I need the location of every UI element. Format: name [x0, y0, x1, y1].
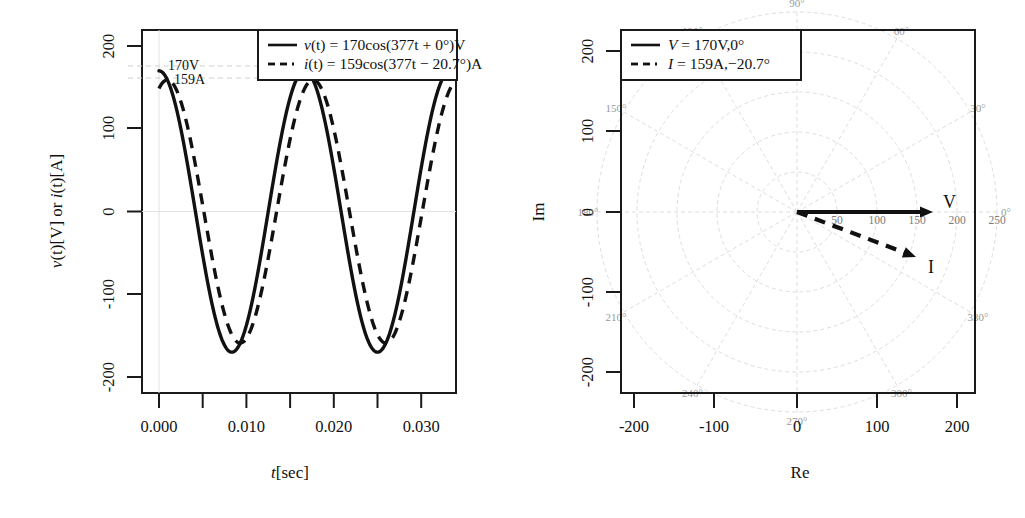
polar-spoke — [797, 212, 970, 312]
legend-entry-voltage: V = 170V,0° — [668, 36, 744, 53]
polar-angle-label: 210° — [606, 311, 627, 323]
legend-entry-current: I = 159A,−20.7° — [667, 55, 770, 72]
polar-spoke — [624, 212, 797, 312]
y-tick-labels: 200 100 0 -100 -200 — [578, 39, 597, 388]
polar-angle-label: 90° — [789, 0, 804, 9]
polar-radial-label: 200 — [948, 214, 966, 226]
polar-spoke — [624, 112, 797, 212]
y-axis-ticks — [127, 46, 142, 377]
x-tick-label: 0.020 — [315, 417, 352, 436]
polar-radial-label: 100 — [868, 214, 886, 226]
phasor-label-i: I — [928, 257, 934, 277]
x-tick-label: 100 — [865, 417, 890, 436]
annotation-170v: 170V — [168, 58, 199, 73]
polar-angle-label: 330° — [968, 311, 989, 323]
x-tick-label: 0.000 — [140, 417, 177, 436]
time-domain-svg: 200 100 0 -100 -200 v(t)[V] or i(t)[A] — [0, 0, 500, 518]
y-tick-label: -200 — [578, 357, 597, 387]
y-tick-label: 200 — [99, 34, 118, 59]
y-tick-label: 200 — [578, 39, 597, 64]
legend: v(t) = 170cos(377t + 0°)V i(t) = 159cos(… — [258, 30, 483, 80]
legend: V = 170V,0° I = 159A,−20.7° — [621, 30, 801, 80]
y-axis-title-t1: (t) — [47, 245, 66, 261]
phasor-vectors: VI — [797, 192, 956, 277]
x-tick-label: 200 — [945, 417, 970, 436]
phasor-label-v: V — [943, 192, 956, 212]
x-axis-title: t[sec] — [271, 463, 309, 482]
y-axis-title: v(t)[V] or i(t)[A] — [47, 154, 66, 268]
x-axis-title-unit: [sec] — [276, 463, 309, 482]
y-tick-labels: 200 100 0 -100 -200 — [99, 34, 118, 393]
y-axis-title-unit2: [A] — [47, 154, 66, 178]
x-axis-title: Re — [791, 463, 810, 482]
polar-radial-labels: 50100150200250 — [831, 214, 1006, 226]
phasor-plot-panel: 0°30°60°90°120°150°180°210°240°270°300°3… — [500, 0, 1025, 518]
figure-container: 200 100 0 -100 -200 v(t)[V] or i(t)[A] — [0, 0, 1025, 518]
time-domain-plot-panel: 200 100 0 -100 -200 v(t)[V] or i(t)[A] — [0, 0, 500, 518]
polar-spoke — [797, 212, 897, 385]
x-tick-label: 0.030 — [403, 417, 440, 436]
x-tick-labels: 0.000 0.010 0.020 0.030 — [140, 417, 439, 436]
polar-angle-label: 150° — [606, 102, 627, 114]
y-axis-title-unit1: [V] or — [47, 198, 66, 244]
polar-spoke — [697, 212, 797, 385]
y-tick-label: -100 — [578, 277, 597, 307]
polar-radial-label: 250 — [988, 214, 1006, 226]
polar-spoke — [797, 39, 897, 212]
y-axis-title-t2: (t) — [47, 177, 66, 193]
y-tick-label: 100 — [99, 116, 118, 141]
legend-entry-voltage: v(t) = 170cos(377t + 0°)V — [304, 36, 466, 54]
x-tick-label: -200 — [619, 417, 649, 436]
y-tick-label: -200 — [99, 362, 118, 392]
annotation-159a: 159A — [174, 72, 206, 87]
legend-entry-current: i(t) = 159cos(377t − 20.7°)A — [304, 55, 483, 73]
legend-entry-current-rest: (t) = 159cos(377t − 20.7°)A — [308, 55, 483, 73]
phasor-v-arrowhead — [920, 207, 933, 218]
legend-entry-current-rest: = 159A,−20.7° — [673, 55, 770, 72]
y-tick-label: -100 — [99, 279, 118, 309]
x-tick-label: 0.010 — [228, 417, 265, 436]
x-tick-label: -100 — [699, 417, 729, 436]
y-tick-label: 100 — [578, 119, 597, 144]
phasor-svg: 0°30°60°90°120°150°180°210°240°270°300°3… — [500, 0, 1025, 518]
x-tick-label: 0 — [793, 417, 801, 436]
x-tick-labels: -200 -100 0 100 200 — [619, 417, 970, 436]
polar-angle-label: 30° — [970, 102, 985, 114]
y-tick-label: 0 — [578, 208, 597, 216]
phasor-i-arrowhead — [902, 247, 916, 257]
phasor-i-shaft — [797, 212, 907, 253]
y-axis-ticks — [606, 51, 621, 372]
y-axis-title: Im — [529, 203, 548, 222]
x-axis-ticks — [159, 393, 421, 408]
legend-entry-voltage-rest: = 170V,0° — [677, 36, 744, 53]
legend-entry-voltage-rest: (t) = 170cos(377t + 0°)V — [311, 36, 466, 54]
y-tick-label: 0 — [99, 207, 118, 215]
